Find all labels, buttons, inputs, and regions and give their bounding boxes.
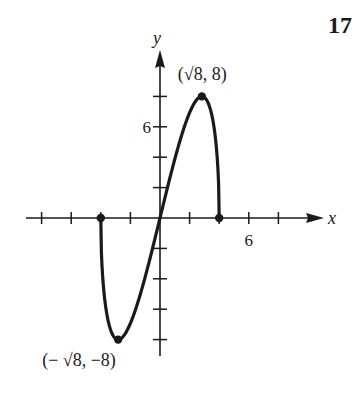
minimum-point-label: (− √8, −8) (42, 350, 116, 371)
point-marker (215, 214, 223, 222)
x-axis-label: x (327, 208, 336, 228)
x-axis-arrow-icon (306, 213, 324, 223)
y-axis-arrow-icon (155, 50, 165, 68)
axes: 66 (26, 50, 324, 356)
point-marker (198, 92, 206, 100)
function-graph: 66 (√8, 8)(− √8, −8) x y (0, 0, 364, 393)
maximum-point-label: (√8, 8) (178, 64, 227, 85)
point-marker (114, 335, 122, 343)
y-tick-label: 6 (143, 118, 152, 137)
point-marker (97, 214, 105, 222)
x-tick-label: 6 (245, 231, 254, 250)
y-axis-label: y (151, 28, 161, 48)
